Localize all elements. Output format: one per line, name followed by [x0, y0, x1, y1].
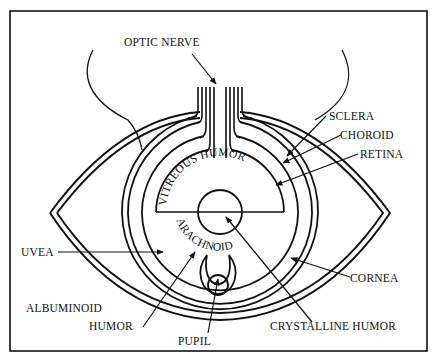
- choroid-label: CHOROID: [340, 129, 394, 141]
- humor-label: HUMOR: [89, 320, 133, 332]
- optic-nerve-leader: [192, 54, 216, 84]
- lens-group: [200, 255, 235, 295]
- cornea-label: CORNEA: [350, 272, 399, 284]
- sclera-outline: [50, 112, 390, 320]
- pupil-label: PUPIL: [178, 335, 211, 347]
- pupil-leader: [208, 279, 218, 333]
- retina-circle: [142, 136, 298, 290]
- crystalline-humor-label: CRYSTALLINE HUMOR: [270, 320, 396, 332]
- albuminoid-label: ALBUMINOID: [26, 302, 102, 314]
- globe-layers: [122, 116, 318, 309]
- sclera-label: SCLERA: [329, 110, 375, 122]
- uvea-label: UVEA: [21, 246, 54, 258]
- retina-label: RETINA: [360, 148, 404, 160]
- optic-nerve-label: OPTIC NERVE: [124, 36, 200, 48]
- left-orbit-curve: [87, 50, 128, 120]
- vitreous-humor-label: VITREOUS HUMOR: [156, 146, 248, 207]
- arachnoid-label: ARACHNOID: [175, 216, 235, 253]
- eye-diagram: VITREOUS HUMOR ARACHNOID OPTIC NERVE SCL…: [0, 0, 436, 362]
- pupil-circle: [208, 275, 228, 295]
